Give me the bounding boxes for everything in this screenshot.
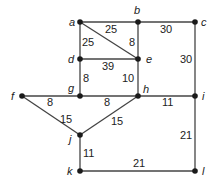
- node-label-e: e: [146, 53, 152, 65]
- node-label-j: j: [67, 133, 72, 145]
- node-k: [77, 168, 83, 174]
- node-a: [77, 19, 83, 25]
- node-d: [77, 56, 83, 62]
- node-label-i: i: [202, 90, 205, 102]
- edge-weight-a-e: 8: [129, 36, 135, 48]
- node-label-b: b: [134, 4, 140, 16]
- edge-weight-d-e: 39: [102, 60, 114, 72]
- node-c: [192, 19, 198, 25]
- node-g: [77, 93, 83, 99]
- edge-weight-f-j: 15: [60, 113, 72, 125]
- node-e: [135, 56, 141, 62]
- edge-weight-e-h: 10: [122, 72, 134, 84]
- edge-weight-k-l: 21: [133, 157, 145, 169]
- edge-weight-h-j: 15: [111, 115, 123, 127]
- node-label-l: l: [202, 165, 205, 177]
- edge-weight-j-k: 11: [83, 147, 94, 159]
- edge-weight-i-l: 21: [180, 129, 192, 141]
- edge-weight-h-i: 11: [162, 96, 173, 108]
- edge-weight-a-b: 25: [105, 23, 117, 35]
- edge-weight-c-i: 30: [180, 53, 192, 65]
- node-i: [192, 93, 198, 99]
- edge-weight-a-d: 25: [82, 36, 94, 48]
- edge-weight-g-h: 8: [104, 96, 110, 108]
- node-b: [135, 19, 141, 25]
- edge-weight-f-g: 8: [47, 96, 53, 108]
- edge-weight-b-c: 30: [160, 23, 172, 35]
- node-f: [19, 93, 25, 99]
- node-label-c: c: [201, 16, 207, 28]
- node-label-a: a: [69, 16, 75, 28]
- node-h: [135, 93, 141, 99]
- node-label-f: f: [11, 90, 15, 102]
- weighted-graph: 2530825393081088111515211121 abcdefghijk…: [0, 0, 218, 189]
- edge-weight-d-g: 8: [83, 72, 89, 84]
- node-label-k: k: [67, 165, 73, 177]
- node-label-d: d: [68, 53, 75, 65]
- node-label-h: h: [143, 83, 149, 95]
- node-l: [192, 168, 198, 174]
- node-j: [77, 132, 83, 138]
- node-label-g: g: [68, 82, 75, 94]
